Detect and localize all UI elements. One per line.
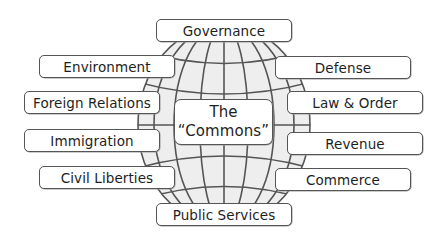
box-governance: Governance	[156, 19, 292, 42]
label-civil-liberties: Civil Liberties	[61, 170, 154, 186]
label-defense: Defense	[315, 60, 371, 76]
box-environment: Environment	[39, 55, 175, 78]
label-foreign-relations: Foreign Relations	[33, 95, 151, 111]
box-public-services: Public Services	[156, 203, 292, 226]
label-public-services: Public Services	[173, 207, 276, 223]
box-immigration: Immigration	[24, 129, 160, 152]
box-foreign-relations: Foreign Relations	[24, 91, 160, 114]
label-immigration: Immigration	[50, 133, 133, 149]
center-label-line1: The	[209, 103, 237, 122]
box-civil-liberties: Civil Liberties	[39, 166, 175, 189]
label-environment: Environment	[63, 59, 150, 75]
label-revenue: Revenue	[325, 136, 385, 152]
box-the-commons: The “Commons”	[174, 99, 273, 145]
label-law-and-order: Law & Order	[312, 95, 397, 111]
label-governance: Governance	[183, 23, 265, 39]
box-commerce: Commerce	[275, 168, 411, 191]
box-defense: Defense	[275, 56, 411, 79]
center-label-line2: “Commons”	[178, 122, 269, 141]
box-revenue: Revenue	[287, 132, 423, 155]
label-commerce: Commerce	[306, 172, 380, 188]
box-law-and-order: Law & Order	[287, 91, 423, 114]
